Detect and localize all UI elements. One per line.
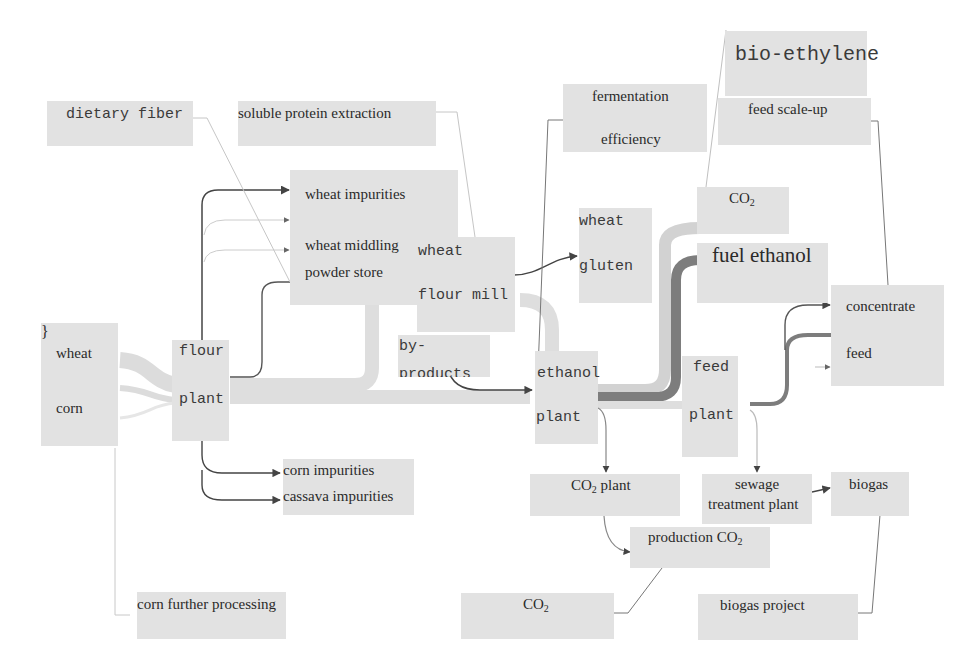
flow-feed-to-concentrate-dark [750,335,832,404]
node-biogas: biogas [831,472,909,516]
arrow-ethanol-to-co2-plant [598,408,606,472]
node-co2: CO2 [697,187,789,234]
annotation-corn-further-processing: corn further processing [137,592,286,639]
powder-store-label: powder store [305,264,383,281]
annotation-dietary-fiber: dietary fiber [47,101,193,146]
arrow-to-wheat-impurities [202,190,289,345]
flow-feed-to-concentrate-thin [785,305,830,350]
flour-mill-label: flour mill [418,287,508,304]
mill-wheat-label: wheat [418,243,463,260]
ethanol-plant-label: plant [536,409,581,426]
node-sewage-treatment: sewage treatment plant [702,474,812,524]
arrow-to-corn-impurities [202,440,280,473]
feed-scale-up-label: feed scale-up [748,101,828,118]
leader-corn-further [115,448,130,615]
node-production-co2: production CO2 [630,527,770,568]
products-label: products [399,366,471,377]
arrow-to-wheat-gluten [514,256,577,275]
cassava-impurities-label: cassava impurities [283,488,393,505]
arrow-feed-to-sewage [750,410,757,472]
co2-bottom-label: CO2 [523,596,549,614]
arrow-to-wheat-middling [204,250,289,262]
leader-feed-scale-up [871,121,888,285]
annotation-bio-ethylene: bio-ethylene [725,31,867,96]
feed-product-label: feed [846,345,872,362]
production-co2-base: production CO [648,529,738,545]
node-ethanol-plant: ethanol plant [535,351,598,444]
co2-plant-base: CO [571,477,592,493]
node-feed-plant: feed plant [682,356,738,457]
ethanol-label: ethanol [537,365,600,382]
node-fuel-ethanol: fuel ethanol [697,243,828,303]
annotation-fermentation-efficiency: fermentation efficiency [563,84,707,152]
dietary-fiber-label: dietary fiber [66,106,183,123]
annotation-feed-scale-up: feed scale-up [718,98,871,145]
arrow-sewage-to-biogas [812,488,830,492]
fermentation-label: fermentation [592,88,669,105]
soluble-protein-label: soluble protein extraction [238,105,391,122]
process-flow-diagram: dietary fiber soluble protein extraction… [0,0,976,665]
feed-plant-label: plant [689,407,734,424]
flour-label: flour [179,343,224,360]
gluten-wheat-label: wheat [579,213,624,230]
node-flour-plant: flour plant [172,340,229,441]
wheat-impurities-label: wheat impurities [305,186,405,203]
production-co2-sub: 2 [738,536,743,547]
production-co2-label: production CO2 [648,529,743,547]
node-raw-material: wheat corn } [41,323,118,446]
wheat-middling-label: wheat middling [305,237,399,254]
node-impurities: corn impurities cassava impurities [283,459,414,515]
arrow-to-cassava-impurities [202,470,280,500]
feed-label: feed [693,359,729,376]
node-concentrate-feed: concentrate feed [831,285,944,386]
node-by-products: by- products [398,335,490,377]
treatment-plant-label: treatment plant [708,496,798,513]
annotation-soluble-protein: soluble protein extraction [238,101,436,146]
leader-co2-bottom [614,568,662,613]
co2-bottom-base: CO [523,596,544,612]
co2-top-sub: 2 [750,197,755,208]
arrow-to-middle [204,220,289,235]
annotation-co2: CO2 [461,593,614,639]
corn-further-label: corn further processing [137,596,276,613]
biogas-project-label: biogas project [720,597,805,614]
node-co2-plant: CO2 plant [530,474,680,516]
sewage-label: sewage [735,476,779,493]
bio-ethylene-label: bio-ethylene [735,43,879,66]
node-wheat-gluten: wheat gluten [579,208,652,303]
efficiency-label: efficiency [601,131,661,148]
plant-label: plant [179,391,224,408]
co2-bottom-sub: 2 [544,603,549,614]
biogas-label: biogas [849,476,888,493]
by-label: by- [399,338,426,355]
flow-wheat-to-flour-plant [120,360,175,385]
co2-plant-rest: plant [597,477,631,493]
link-to-powder-store [230,282,292,377]
arrow-co2-plant-to-production [604,516,630,552]
gluten-label: gluten [579,258,633,275]
leader-biogas-project [858,515,880,613]
corn-label: corn [56,400,83,417]
fuel-ethanol-label: fuel ethanol [712,243,812,268]
annotation-biogas-project: biogas project [698,594,858,640]
corn-impurities-label: corn impurities [283,462,374,479]
wheat-label: wheat [56,345,92,362]
co2-top-base: CO [729,190,750,206]
co2-top-label: CO2 [729,190,755,208]
concentrate-label: concentrate [846,298,915,315]
flow-corn2-to-flour-plant [120,403,175,418]
node-wheat-flour-mill: wheat flour mill [417,237,515,332]
co2-plant-label: CO2 plant [571,477,631,495]
flow-to-powder-store [230,300,372,385]
